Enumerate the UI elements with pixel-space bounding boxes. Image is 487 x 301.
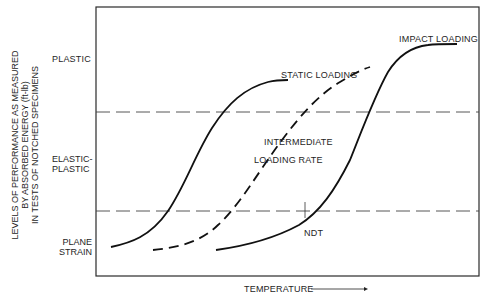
y-level-plastic: PLASTIC (52, 54, 91, 64)
y-level-plane-line1: PLANE (50, 237, 92, 247)
y-axis-title-line1: LEVELS OF PERFORMANCE AS MEASURED (10, 32, 20, 258)
arrow-right-icon (364, 287, 368, 291)
intermediate-label-line1: INTERMEDIATE (264, 137, 333, 147)
intermediate-label-line2: LOADING RATE (254, 155, 323, 165)
y-level-elastic-line2: PLASTIC (52, 164, 92, 174)
y-level-plane-line2: STRAIN (50, 247, 92, 257)
impact-loading-label: IMPACT LOADING (399, 34, 478, 44)
y-level-plane-strain: PLANE STRAIN (50, 237, 92, 257)
y-axis-title-line2: BY ABSORBED ENERGY (ft-lb) (20, 32, 30, 258)
y-axis-title-line3: IN TESTS OF NOTCHED SPECIMENS (30, 32, 40, 258)
static-loading-label: STATIC LOADING (281, 70, 357, 80)
x-axis-title: TEMPERATURE (244, 284, 314, 294)
y-level-elastic-line1: ELASTIC- (52, 154, 92, 164)
y-level-elastic-plastic: ELASTIC- PLASTIC (52, 154, 92, 174)
ndt-label: NDT (304, 228, 323, 238)
y-axis-title: LEVELS OF PERFORMANCE AS MEASURED BY ABS… (10, 32, 40, 258)
